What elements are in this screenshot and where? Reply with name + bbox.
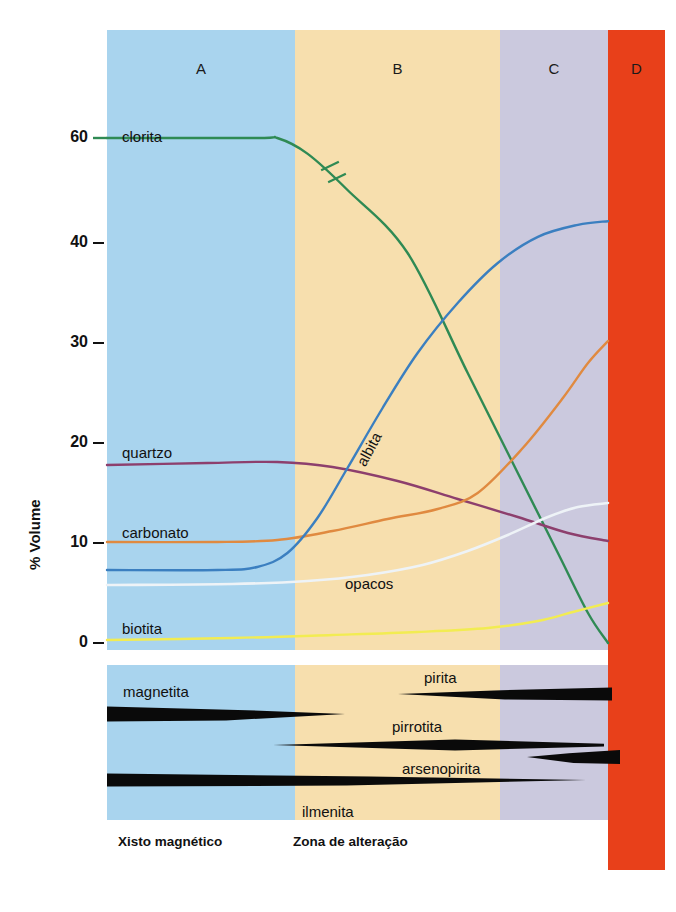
y-axis-tick-mark-0 (93, 642, 104, 644)
zone-band-b (295, 30, 500, 650)
zone-band-a (107, 30, 295, 650)
mineral-abundance-figure: ABCD01020304060% Volumecloritaquartzocar… (0, 0, 676, 912)
zone-band-d (608, 30, 665, 870)
mineral-band-label-pirita: pirita (424, 669, 457, 686)
y-axis-title: % Volume (26, 499, 43, 570)
curve-label-biotita: biotita (122, 620, 162, 637)
zone-band-lower-c (500, 665, 608, 820)
y-axis-tick-label-0: 0 (54, 633, 88, 651)
figure-caption-2: Zona de alteração (293, 834, 408, 849)
y-axis-tick-label-10: 10 (54, 533, 88, 551)
zone-label-b: B (295, 60, 500, 77)
y-axis-tick-mark-10 (93, 542, 104, 544)
y-axis-tick-mark-30 (93, 342, 104, 344)
curve-label-clorita: clorita (122, 128, 162, 145)
mineral-band-label-arsenopirita: arsenopirita (402, 760, 480, 777)
y-axis-tick-mark-20 (93, 442, 104, 444)
mineral-band-label-magnetita: magnetita (123, 683, 189, 700)
zone-label-a: A (107, 60, 295, 77)
curve-label-opacos: opacos (345, 575, 393, 592)
figure-caption-1: Xisto magnético (118, 834, 222, 849)
zone-label-c: C (500, 60, 608, 77)
y-axis-tick-mark-60 (93, 137, 104, 139)
zone-label-d: D (608, 60, 665, 77)
y-axis-tick-label-20: 20 (54, 433, 88, 451)
mineral-band-label-pirrotita: pirrotita (392, 718, 442, 735)
y-axis-tick-label-40: 40 (54, 233, 88, 251)
curve-label-carbonato: carbonato (122, 524, 189, 541)
y-axis-tick-label-60: 60 (54, 128, 88, 146)
zone-band-c (500, 30, 608, 650)
zone-band-lower-b (295, 665, 500, 820)
mineral-band-label-ilmenita: ilmenita (302, 803, 354, 820)
curve-label-quartzo: quartzo (122, 444, 172, 461)
y-axis-tick-label-30: 30 (54, 333, 88, 351)
y-axis-tick-mark-40 (93, 242, 104, 244)
